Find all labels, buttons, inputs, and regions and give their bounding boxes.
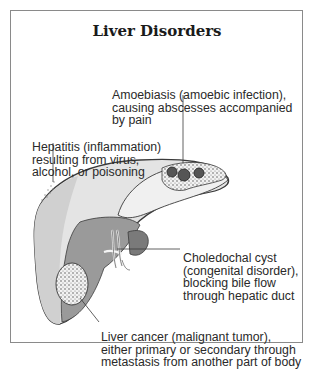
- annotation-hepatitis: Hepatitis (inflammation)resulting from v…: [32, 116, 161, 192]
- leader-cancer: [80, 298, 99, 322]
- abscess-3: [194, 168, 204, 178]
- tumor: [56, 263, 88, 305]
- gallbladder: [128, 231, 148, 256]
- annotation-liver-cancer: Liver cancer (malignant tumor),either pr…: [101, 306, 301, 382]
- annotation-choledochal-cyst: Choledochal cyst(congenital disorder),bl…: [183, 227, 299, 315]
- abscess-2: [178, 169, 190, 181]
- abscess-1: [167, 167, 177, 177]
